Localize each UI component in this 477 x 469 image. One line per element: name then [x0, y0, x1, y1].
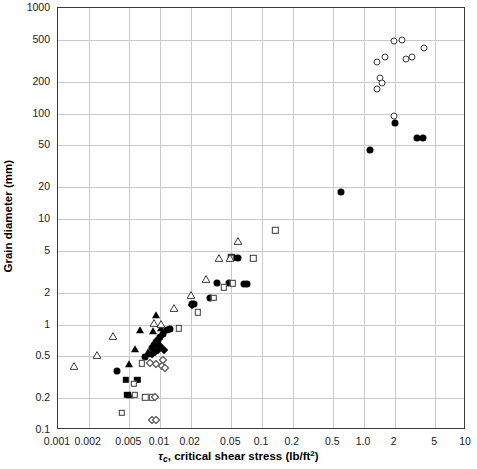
data-point-filled-diamond	[160, 346, 168, 354]
y-tick-label: 5	[0, 244, 50, 256]
data-point-open-circle	[382, 53, 389, 60]
data-point-filled-triangle	[136, 326, 144, 333]
data-point-open-square	[272, 227, 278, 233]
data-point-open-square	[195, 309, 201, 315]
y-tick-label: 500	[0, 33, 50, 45]
data-point-open-triangle	[156, 320, 165, 328]
data-point-open-triangle	[70, 362, 79, 370]
x-tick-label: 0.2	[284, 435, 299, 447]
x-tick-label: 0.002	[75, 435, 101, 447]
x-tick-label: 5	[431, 435, 437, 447]
data-point-open-triangle	[187, 291, 196, 299]
x-gridline	[293, 8, 294, 428]
data-point-open-circle	[378, 79, 385, 86]
data-point-open-square	[230, 280, 236, 286]
plot-area	[57, 7, 465, 429]
y-tick-label: 0.5	[0, 349, 50, 361]
x-tick-label: 0.1	[254, 435, 269, 447]
y-gridline	[58, 145, 464, 146]
data-point-filled-circle	[391, 119, 398, 126]
x-gridline	[364, 8, 365, 428]
data-point-filled-circle	[420, 135, 427, 142]
y-tick-label: 50	[0, 138, 50, 150]
y-tick-label: 1	[0, 318, 50, 330]
y-tick-label: 0.1	[0, 423, 50, 435]
data-point-open-square	[142, 394, 148, 400]
y-tick-label: 1000	[0, 1, 50, 13]
data-point-open-square	[221, 284, 227, 290]
y-gridline	[58, 251, 464, 252]
data-point-filled-circle	[367, 147, 374, 154]
data-point-open-circle	[408, 53, 415, 60]
x-gridline	[191, 8, 192, 428]
x-tick-label: 0.001	[44, 435, 70, 447]
data-point-open-circle	[374, 58, 381, 65]
y-gridline	[58, 293, 464, 294]
data-point-filled-triangle	[125, 360, 133, 367]
data-point-filled-circle	[338, 189, 345, 196]
x-tick-label: 0.01	[149, 435, 169, 447]
data-point-filled-triangle	[131, 345, 139, 352]
data-point-open-square	[210, 294, 216, 300]
x-tick-label: 1.0	[356, 435, 371, 447]
x-gridline	[231, 8, 232, 428]
data-point-filled-square	[122, 376, 128, 382]
y-tick-label: 10	[0, 212, 50, 224]
data-point-open-square	[175, 325, 181, 331]
data-point-open-square	[118, 410, 124, 416]
y-gridline	[58, 114, 464, 115]
data-point-filled-circle	[114, 368, 121, 375]
x-tick-label: 2	[391, 435, 397, 447]
data-point-open-triangle	[92, 351, 101, 359]
data-point-filled-triangle	[152, 312, 160, 319]
y-tick-label: 100	[0, 107, 50, 119]
data-point-open-square	[130, 380, 136, 386]
data-point-open-triangle	[109, 332, 118, 340]
x-tick-label: 0.5	[325, 435, 340, 447]
chart-figure: Grain diameter (mm) τc, critical shear s…	[0, 0, 477, 469]
x-tick-label: 10	[459, 435, 471, 447]
data-point-open-square	[138, 360, 144, 366]
data-point-open-square	[250, 255, 256, 261]
x-tick-label: 0.02	[179, 435, 199, 447]
data-point-filled-circle	[244, 281, 251, 288]
data-point-open-square	[132, 392, 138, 398]
data-point-open-circle	[398, 37, 405, 44]
y-gridline	[58, 398, 464, 399]
y-gridline	[58, 219, 464, 220]
y-tick-label: 0.2	[0, 391, 50, 403]
x-gridline	[333, 8, 334, 428]
y-gridline	[58, 325, 464, 326]
data-point-filled-circle	[213, 280, 220, 287]
y-gridline	[58, 187, 464, 188]
x-gridline	[435, 8, 436, 428]
data-point-open-triangle	[214, 254, 223, 262]
data-point-open-circle	[390, 37, 397, 44]
data-point-open-circle	[421, 44, 428, 51]
data-point-open-triangle	[201, 275, 210, 283]
x-gridline	[89, 8, 90, 428]
data-point-filled-circle	[166, 326, 173, 333]
y-tick-label: 200	[0, 75, 50, 87]
data-point-open-triangle	[226, 254, 235, 262]
x-tick-label: 0.05	[220, 435, 240, 447]
x-tick-label: 0.005	[115, 435, 141, 447]
x-gridline	[395, 8, 396, 428]
y-gridline	[58, 356, 464, 357]
data-point-open-circle	[374, 86, 381, 93]
y-tick-label: 20	[0, 180, 50, 192]
y-tick-label: 2	[0, 286, 50, 298]
data-point-open-triangle	[233, 237, 242, 245]
data-point-open-triangle	[169, 304, 178, 312]
x-gridline	[262, 8, 263, 428]
y-gridline	[58, 82, 464, 83]
x-axis-label: τc, critical shear stress (lb/ft2)	[0, 449, 477, 464]
